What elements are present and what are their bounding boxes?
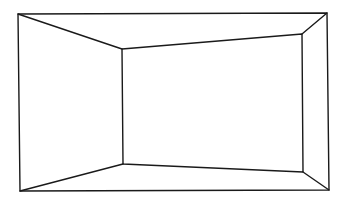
room-perspective-diagram	[0, 0, 349, 205]
floor-left-corner-edge	[20, 164, 123, 191]
ceiling-right-corner-edge	[302, 13, 327, 34]
floor-right-corner-edge	[303, 172, 329, 190]
ceiling-left-corner-edge	[18, 14, 122, 49]
outer-frame	[18, 13, 329, 191]
back-wall	[122, 34, 303, 172]
room-drawing	[0, 0, 349, 205]
